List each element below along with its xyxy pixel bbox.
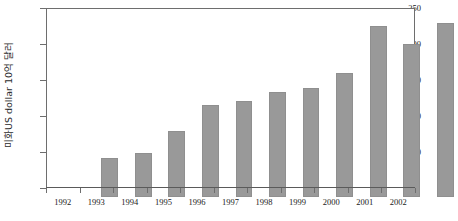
plot-area xyxy=(46,8,415,188)
bars-container xyxy=(93,17,458,197)
x-axis-tick xyxy=(113,188,114,193)
bar-slot xyxy=(202,17,219,197)
x-axis-tick xyxy=(80,188,81,193)
x-axis-tick xyxy=(46,188,47,193)
x-axis: 1992199319941995199619971998199920002001… xyxy=(46,188,415,221)
bar-1998 xyxy=(303,88,320,197)
bar-slot xyxy=(336,17,353,197)
bar-slot xyxy=(135,17,152,197)
x-axis-label-1994: 1994 xyxy=(121,197,138,207)
x-axis-tick xyxy=(314,188,315,193)
bar-slot xyxy=(370,17,387,197)
bar-2001 xyxy=(403,44,420,197)
bar-1995 xyxy=(202,105,219,197)
x-axis-label-2002: 2002 xyxy=(390,197,407,207)
bar-1996 xyxy=(236,101,253,197)
bar-1999 xyxy=(336,73,353,197)
bar-2002 xyxy=(437,23,454,197)
x-axis-label-2000: 2000 xyxy=(323,197,340,207)
x-axis-label-1998: 1998 xyxy=(256,197,273,207)
x-axis-label-1995: 1995 xyxy=(155,197,172,207)
bar-slot xyxy=(168,17,185,197)
bar-slot xyxy=(269,17,286,197)
x-axis-tick xyxy=(348,188,349,193)
y-axis-title-text: 미화US dollar 10억 달러 xyxy=(1,42,15,148)
bar-slot xyxy=(236,17,253,197)
x-axis-label-1997: 1997 xyxy=(222,197,239,207)
x-axis-label-2001: 2001 xyxy=(356,197,373,207)
x-axis-tick xyxy=(415,188,416,193)
x-axis-label-1992: 1992 xyxy=(54,197,71,207)
bar-2000 xyxy=(370,26,387,197)
x-axis-tick xyxy=(281,188,282,193)
x-axis-tick xyxy=(180,188,181,193)
y-axis-title: 미화US dollar 10억 달러 xyxy=(0,0,16,190)
bar-slot xyxy=(303,17,320,197)
bar-1997 xyxy=(269,92,286,197)
bar-slot xyxy=(101,17,118,197)
x-axis-label-1999: 1999 xyxy=(289,197,306,207)
x-axis-tick xyxy=(214,188,215,193)
x-axis-label-1993: 1993 xyxy=(88,197,105,207)
bar-slot xyxy=(403,17,420,197)
x-axis-tick xyxy=(147,188,148,193)
x-axis-tick xyxy=(247,188,248,193)
x-axis-tick xyxy=(381,188,382,193)
x-axis-label-1996: 1996 xyxy=(188,197,205,207)
bar-slot xyxy=(437,17,454,197)
